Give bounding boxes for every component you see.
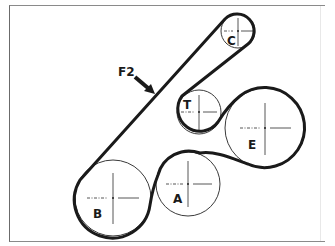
pulley-label-a: A xyxy=(173,192,183,206)
pulley-label-b: B xyxy=(93,207,102,221)
crosshairs xyxy=(87,18,291,224)
callout-label-f2: F2 xyxy=(118,65,135,79)
pulley-label-e: E xyxy=(248,138,256,152)
f2-arrow-icon xyxy=(135,77,155,94)
belt-diagram: F2 C T E A B xyxy=(0,0,335,246)
belt xyxy=(74,14,304,238)
pulley-label-t: T xyxy=(183,98,192,112)
pulley-label-c: C xyxy=(227,34,236,48)
